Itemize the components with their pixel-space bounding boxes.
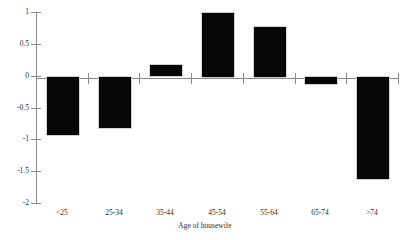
y-axis-tick-label: 0.5 bbox=[0, 40, 29, 48]
bar bbox=[201, 12, 235, 78]
y-axis-tick bbox=[31, 203, 41, 204]
x-axis-tick bbox=[398, 73, 399, 84]
x-axis-tick bbox=[36, 73, 37, 84]
y-axis-tick-label-text: 0.5 bbox=[3, 40, 29, 48]
y-axis-tick-label: -1 bbox=[0, 135, 29, 143]
bar bbox=[356, 76, 390, 180]
bar bbox=[304, 76, 338, 85]
x-axis-tick bbox=[243, 73, 244, 84]
x-axis-tick bbox=[191, 73, 192, 84]
y-axis-tick-label: 1 bbox=[0, 8, 29, 16]
y-axis-tick-label-text: -2 bbox=[3, 199, 29, 207]
y-axis-tick bbox=[31, 108, 41, 109]
y-axis-tick bbox=[31, 171, 41, 172]
y-axis-tick-label-text: -1 bbox=[3, 135, 29, 143]
bar bbox=[253, 26, 287, 78]
x-axis-tick bbox=[88, 73, 89, 84]
x-axis-tick-label: 25-34 bbox=[105, 208, 123, 217]
bar bbox=[149, 64, 183, 77]
y-axis-tick bbox=[31, 44, 41, 45]
x-axis-tick bbox=[139, 73, 140, 84]
x-axis-tick bbox=[295, 73, 296, 84]
x-axis-tick-label: <25 bbox=[56, 208, 68, 217]
bar-chart: 10.50-0.5-1-1.5-2 <2525-3435-4445-5455-6… bbox=[0, 0, 410, 240]
x-axis-tick-label: 65-74 bbox=[311, 208, 329, 217]
x-axis-title: Age of housewife bbox=[0, 221, 410, 230]
bar bbox=[46, 76, 80, 136]
y-axis-tick bbox=[31, 12, 41, 13]
y-axis-tick-label-text: -0.5 bbox=[3, 104, 29, 112]
y-axis-tick-label-text: 1 bbox=[3, 8, 29, 16]
x-axis-tick-label: 45-54 bbox=[208, 208, 226, 217]
bar bbox=[98, 76, 132, 129]
x-axis-tick-label: >74 bbox=[366, 208, 378, 217]
x-axis-tick-label: 55-64 bbox=[260, 208, 278, 217]
y-axis-tick-label: -1.5 bbox=[0, 167, 29, 175]
y-axis-tick-label-text: -1.5 bbox=[3, 167, 29, 175]
x-axis-tick-label: 35-44 bbox=[156, 208, 174, 217]
zero-baseline-axis bbox=[36, 78, 398, 79]
y-axis-tick-label-text: 0 bbox=[3, 72, 29, 80]
y-axis-tick bbox=[31, 139, 41, 140]
x-axis-tick bbox=[346, 73, 347, 84]
y-axis-tick-label: -2 bbox=[0, 199, 29, 207]
y-axis-tick-label: 0 bbox=[0, 72, 29, 80]
y-axis-tick-label: -0.5 bbox=[0, 104, 29, 112]
